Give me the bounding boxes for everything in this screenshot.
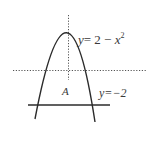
region-label-a: A [61, 85, 69, 97]
diagram-canvas: y= 2 − x2 A y=−2 [0, 0, 154, 156]
line-label: y=−2 [98, 86, 127, 100]
curve-label: y= 2 − x2 [76, 31, 124, 47]
